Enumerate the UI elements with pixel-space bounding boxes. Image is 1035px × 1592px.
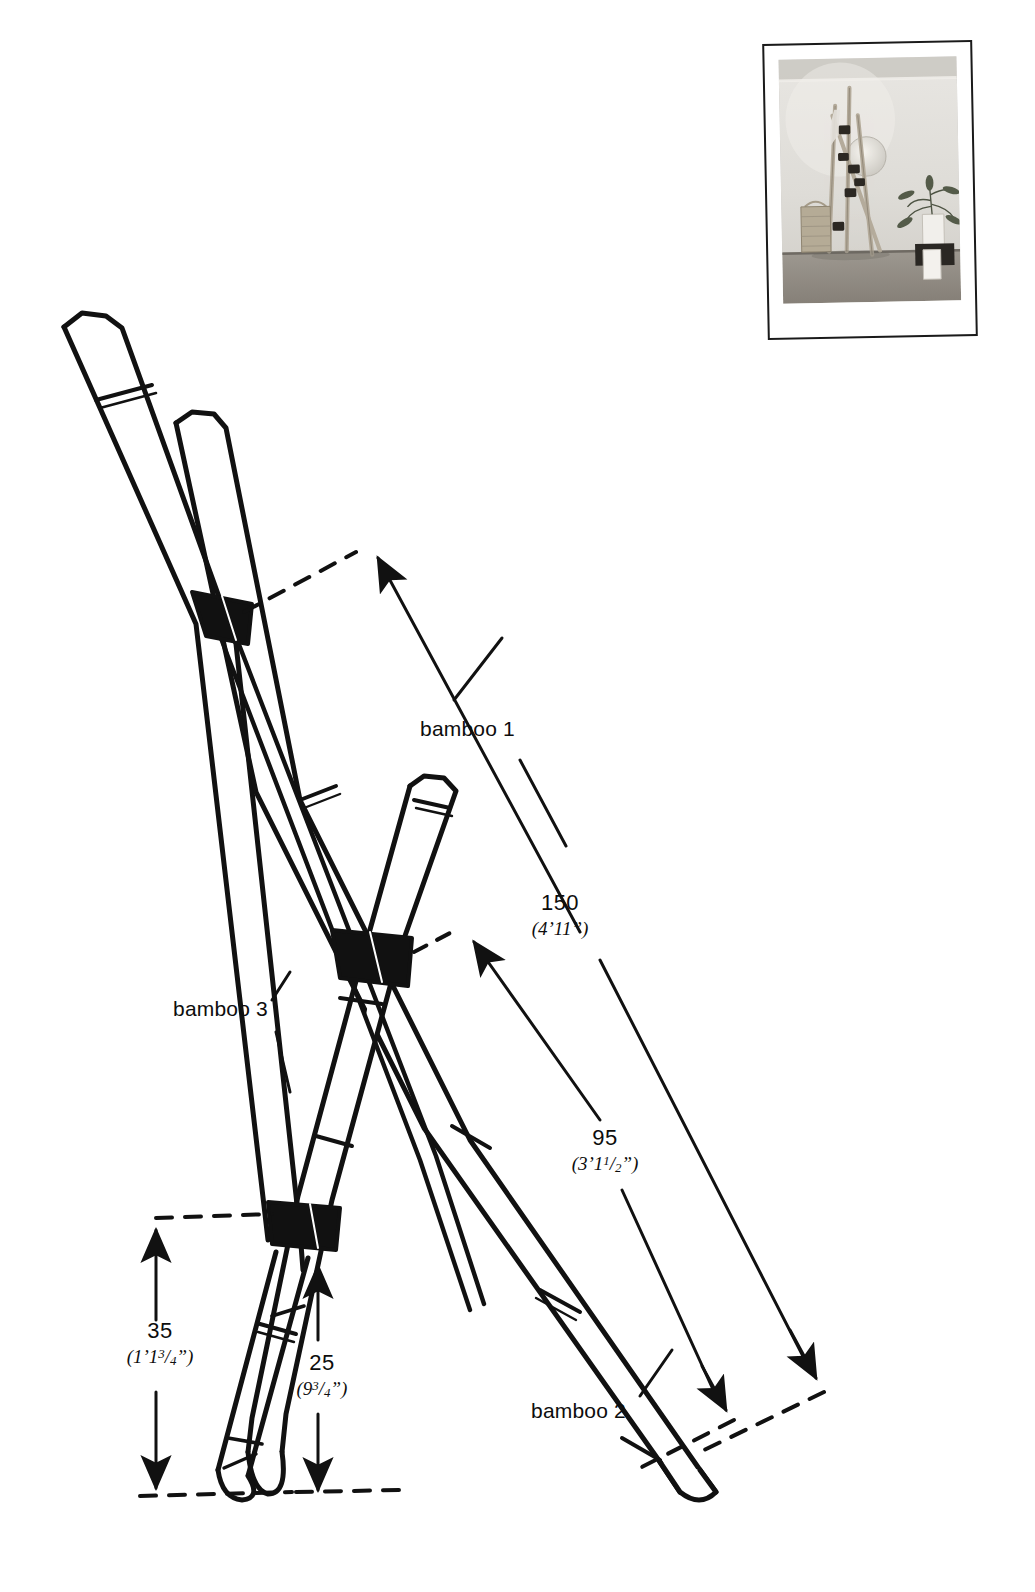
leader-line-bamboo-1a bbox=[454, 638, 502, 700]
extension-line-25-bottom bbox=[296, 1490, 400, 1492]
dimension-label-25: 25 (93/4”) bbox=[272, 1350, 372, 1401]
diagram-page: bamboo 1 bamboo 3 bamboo 2 150 (4’11”) 9… bbox=[0, 0, 1035, 1592]
dimension-label-35: 35 (1’13/4”) bbox=[105, 1318, 215, 1369]
dimension-label-150: 150 (4’11”) bbox=[505, 890, 615, 940]
extension-line-bottom-right-1 bbox=[700, 1392, 824, 1452]
dimension-arrow-150-lower bbox=[790, 1330, 816, 1378]
basket bbox=[801, 201, 831, 252]
photo-inset-card bbox=[762, 40, 978, 340]
dimension-arrow-95-lower bbox=[702, 1366, 726, 1410]
dimension-imperial-95: (3’11/2”) bbox=[545, 1153, 665, 1176]
node-ring bbox=[622, 1438, 660, 1460]
label-bamboo-3: bamboo 3 bbox=[173, 998, 268, 1020]
photo-illustration bbox=[778, 56, 961, 303]
label-bamboo-1: bamboo 1 bbox=[420, 718, 515, 740]
lashing-bottom bbox=[268, 1202, 340, 1250]
dimension-imperial-25: (93/4”) bbox=[272, 1378, 372, 1401]
extension-line-35-top bbox=[156, 1214, 272, 1218]
dimension-imperial-35: (1’13/4”) bbox=[105, 1346, 215, 1369]
photo-inset-image bbox=[778, 56, 961, 303]
label-bamboo-2: bamboo 2 bbox=[531, 1400, 626, 1422]
dimension-label-95: 95 (3’11/2”) bbox=[545, 1125, 665, 1176]
dimension-imperial-150: (4’11”) bbox=[505, 918, 615, 940]
